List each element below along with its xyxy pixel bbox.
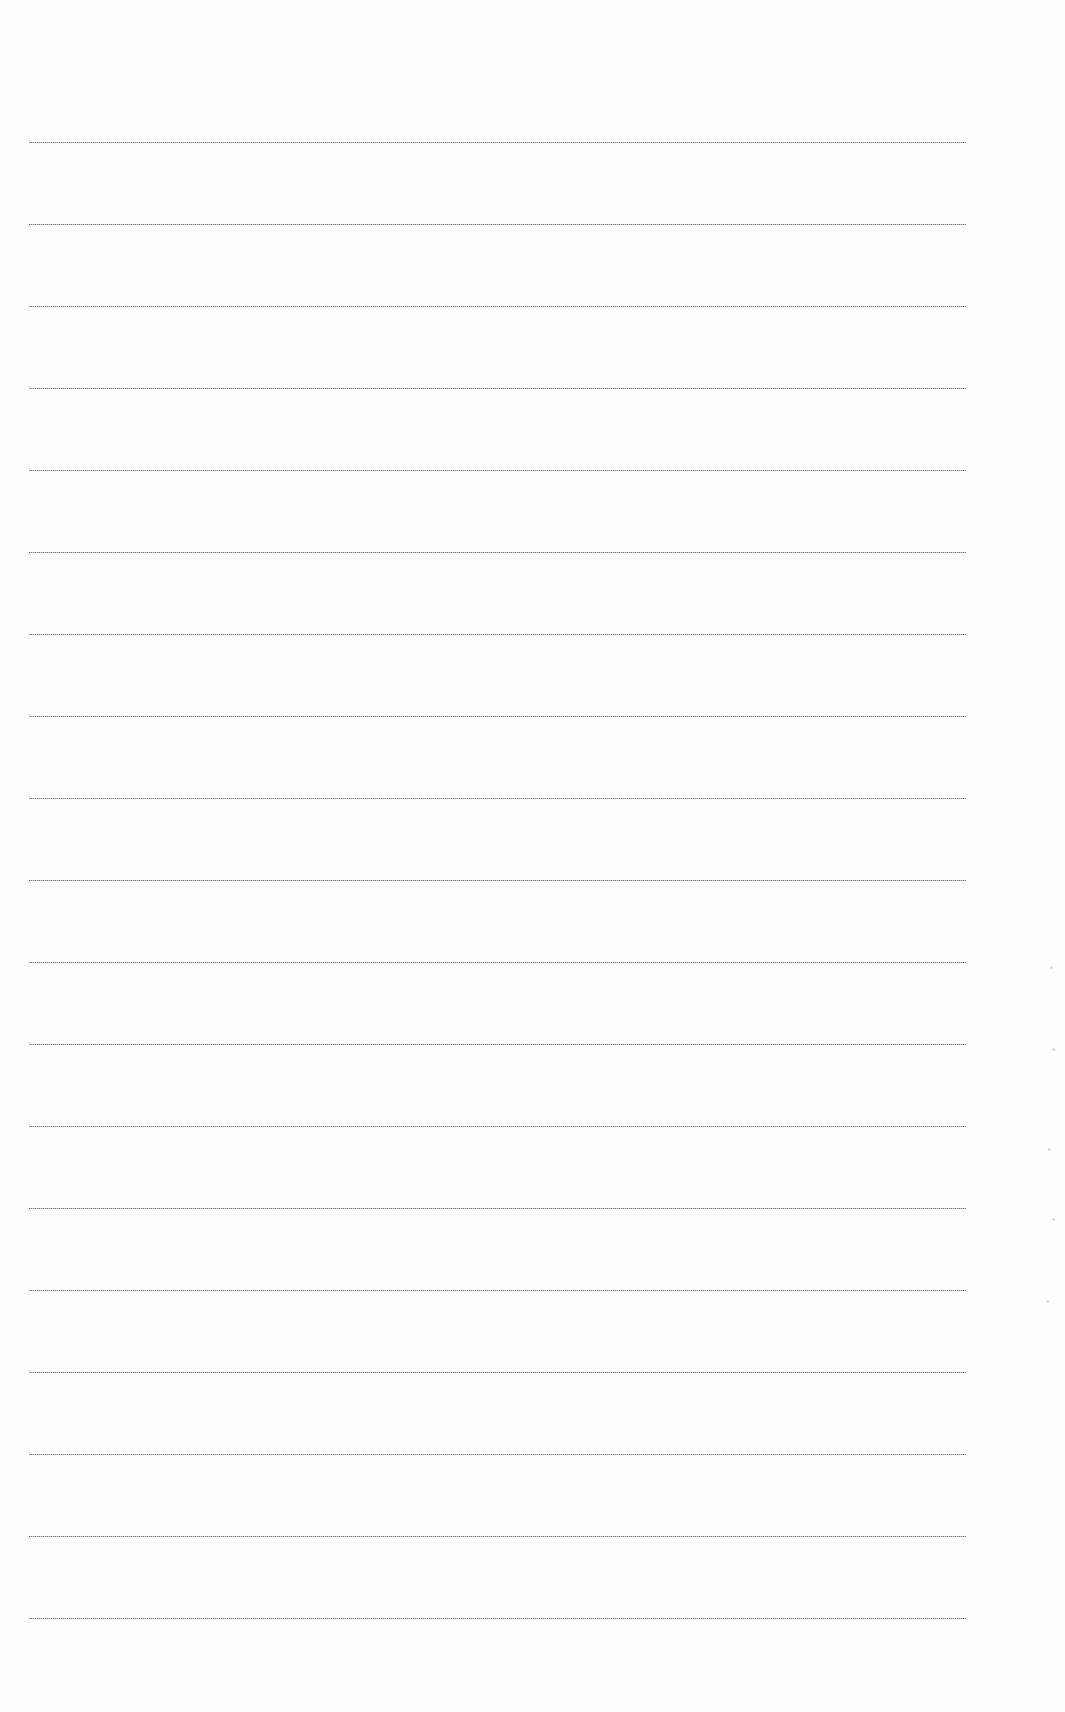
ruled-line (29, 142, 966, 143)
ruled-line (29, 552, 966, 553)
ruled-line (29, 1618, 966, 1619)
ruled-line (29, 716, 966, 717)
ruled-line (29, 470, 966, 471)
ruled-line (29, 224, 966, 225)
ruled-line (29, 1372, 966, 1373)
ruled-line (29, 880, 966, 881)
ruled-line (29, 1208, 966, 1209)
ruled-line (29, 1454, 966, 1455)
scan-artifact (1050, 966, 1053, 969)
lined-paper-page (0, 0, 1065, 1712)
ruled-line (29, 306, 966, 307)
scan-artifact (1052, 1048, 1055, 1051)
scan-artifact (1048, 1148, 1051, 1151)
ruled-line (29, 1536, 966, 1537)
ruled-line (29, 388, 966, 389)
ruled-line (29, 1290, 966, 1291)
ruled-line (29, 798, 966, 799)
ruled-line (29, 962, 966, 963)
scan-artifact (1046, 1300, 1049, 1303)
ruled-line (29, 634, 966, 635)
ruled-line (29, 1044, 966, 1045)
scan-artifact (1052, 1218, 1055, 1221)
ruled-line (29, 1126, 966, 1127)
